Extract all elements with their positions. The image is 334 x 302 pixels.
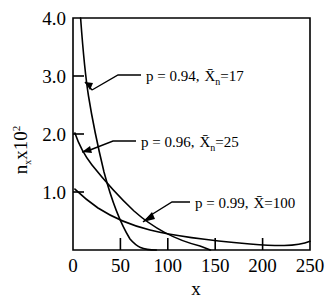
x-tick-label-200: 200: [248, 255, 277, 276]
y-tick-label-4: 4.0: [42, 8, 66, 29]
annotation-p099-text: p = 0.99,X̄=100: [195, 195, 295, 211]
y-axis-title-mid: x10: [10, 131, 31, 160]
x-tick-label-100: 100: [154, 255, 183, 276]
annotation-p096-p: p = 0.96,: [141, 134, 194, 150]
annotation-p099-p: p = 0.99,: [195, 195, 248, 211]
y-tick-label-2: 2.0: [42, 124, 66, 145]
y-tick-label-3: 3.0: [42, 66, 66, 87]
chart-svg: 4.0 3.0 2.0 1.0 0 50 100 150 200 250 x n…: [0, 0, 334, 302]
x-axis-title: x: [191, 278, 201, 299]
x-tick-label-150: 150: [201, 255, 230, 276]
x-tick-label-50: 50: [111, 255, 130, 276]
x-tick-label-250: 250: [296, 255, 325, 276]
y-tick-label-1: 1.0: [42, 182, 66, 203]
svg-text:nxx102: nxx102: [10, 126, 33, 175]
annotation-p099-xbar: X̄: [253, 195, 264, 211]
chart-figure: 4.0 3.0 2.0 1.0 0 50 100 150 200 250 x n…: [0, 0, 334, 302]
annotation-p094-val: =17: [220, 68, 244, 84]
annotation-p099-val: =100: [264, 195, 295, 211]
annotation-p094-p: p = 0.94,: [146, 68, 199, 84]
annotation-p096-val: =25: [215, 134, 238, 150]
annotation-p094-xbar: X̄: [204, 68, 215, 84]
y-axis-title-base: n: [10, 164, 31, 174]
annotation-p096-xbar: X̄: [199, 134, 210, 150]
y-axis-title-exp: 2: [10, 126, 22, 132]
x-tick-label-0: 0: [68, 255, 78, 276]
y-axis-title: nxx102: [10, 126, 33, 175]
